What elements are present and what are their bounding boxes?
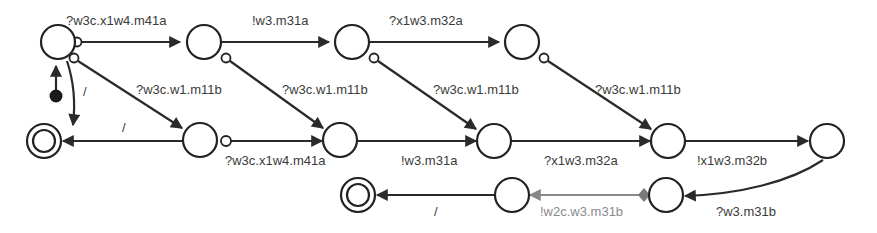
label-n0-f1: / xyxy=(83,84,87,99)
final-state-f1[interactable] xyxy=(27,124,61,158)
final-state-f2[interactable] xyxy=(341,178,375,212)
label-n2-n3: ?x1w3.m32a xyxy=(389,13,463,28)
state-n0[interactable] xyxy=(41,25,75,59)
state-n9[interactable] xyxy=(495,178,529,212)
label-n10-n9: !w2c.w3.m31b xyxy=(540,204,623,219)
label-n1-n5: ?w3c.w1.m11b xyxy=(282,82,368,97)
label-n1-n2: !w3.m31a xyxy=(252,13,309,28)
edge-n4-n5 xyxy=(221,136,322,146)
state-n5[interactable] xyxy=(323,123,357,157)
edge-n0-f1 xyxy=(67,61,74,125)
port-icon xyxy=(370,54,379,63)
state-machine-diagram: ?w3c.x1w4.m41a !w3.m31a ?x1w3.m32a ?w3c.… xyxy=(0,0,877,233)
state-n2[interactable] xyxy=(335,25,369,59)
label-n9-f2: / xyxy=(434,204,438,219)
port-icon xyxy=(70,54,79,63)
state-n4[interactable] xyxy=(183,123,217,157)
state-n7[interactable] xyxy=(651,124,685,158)
port-icon xyxy=(221,136,231,146)
label-n7-n8: !x1w3.m32b xyxy=(697,153,767,168)
label-n2-n6: ?w3c.w1.m11b xyxy=(433,82,519,97)
label-n0-n1: ?w3c.x1w4.m41a xyxy=(66,13,167,28)
initial-state-dot xyxy=(50,90,63,103)
port-icon xyxy=(222,54,231,63)
state-n8[interactable] xyxy=(810,124,844,158)
state-n3[interactable] xyxy=(505,25,539,59)
state-n1[interactable] xyxy=(187,25,221,59)
state-n6[interactable] xyxy=(477,124,511,158)
label-n5-n6: !w3.m31a xyxy=(401,153,458,168)
label-n6-n7: ?x1w3.m32a xyxy=(544,153,618,168)
label-n0-n4: ?w3c.w1.m11b xyxy=(136,82,222,97)
label-n8-n10: ?w3.m31b xyxy=(716,204,776,219)
label-n4-n5: ?w3c.x1w4.m41a xyxy=(225,153,326,168)
edge-n0-n1 xyxy=(73,38,181,47)
port-icon xyxy=(540,54,549,63)
state-n10[interactable] xyxy=(649,178,683,212)
edge-n10-n9 xyxy=(530,188,650,202)
label-n4-f1: / xyxy=(122,120,126,135)
label-n3-n7: ?w3c.w1.m11b xyxy=(595,82,681,97)
